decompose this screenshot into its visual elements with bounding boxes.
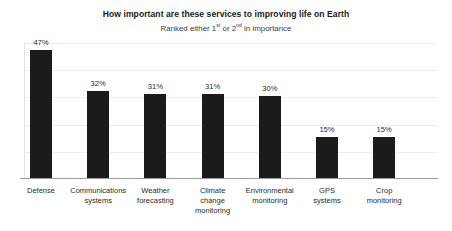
category-label-line: Communications <box>67 186 129 196</box>
category-label-line: Crop <box>353 186 415 196</box>
x-axis-category-label: Climatechangemonitoring <box>182 186 244 217</box>
bar[interactable] <box>202 94 224 178</box>
category-label-line: GPS <box>296 186 358 196</box>
category-label-line: monitoring <box>239 196 301 206</box>
category-label-line: systems <box>67 196 129 206</box>
bar-group[interactable]: 30% <box>242 96 299 178</box>
bar-value-label: 47% <box>13 38 70 47</box>
bar[interactable] <box>30 50 52 178</box>
bar[interactable] <box>259 96 281 178</box>
bar-group[interactable]: 47% <box>13 50 70 178</box>
bar[interactable] <box>144 94 166 178</box>
category-label-line: Defense <box>10 186 72 196</box>
bar-value-label: 30% <box>242 84 299 93</box>
bar-group[interactable]: 31% <box>184 94 241 178</box>
bar[interactable] <box>373 137 395 178</box>
bar-group[interactable]: 15% <box>356 137 413 178</box>
category-label-line: forecasting <box>124 196 186 206</box>
bar-value-label: 31% <box>127 82 184 91</box>
category-label-line: systems <box>296 196 358 206</box>
x-axis-category-label: Defense <box>10 186 72 196</box>
x-axis-category-label: Cropmonitoring <box>353 186 415 206</box>
category-label-line: monitoring <box>353 196 415 206</box>
category-label-line: monitoring <box>182 206 244 216</box>
bar[interactable] <box>316 137 338 178</box>
x-axis-category-label: Environmentalmonitoring <box>239 186 301 206</box>
category-label-line: Environmental <box>239 186 301 196</box>
bar-group[interactable]: 32% <box>70 91 127 178</box>
bar-value-label: 32% <box>70 79 127 88</box>
bar-value-label: 15% <box>299 125 356 134</box>
category-label-line: change <box>182 196 244 206</box>
bar-value-label: 31% <box>184 82 241 91</box>
bar-group[interactable]: 31% <box>127 94 184 178</box>
x-axis-category-label: Weatherforecasting <box>124 186 186 206</box>
x-axis-category-label: Communicationssystems <box>67 186 129 206</box>
bar[interactable] <box>87 91 109 178</box>
bar-value-label: 15% <box>356 125 413 134</box>
bar-group[interactable]: 15% <box>299 137 356 178</box>
bar-chart: How important are these services to impr… <box>0 0 452 231</box>
x-axis-category-label: GPSsystems <box>296 186 358 206</box>
category-label-line: Climate <box>182 186 244 196</box>
category-label-line: Weather <box>124 186 186 196</box>
